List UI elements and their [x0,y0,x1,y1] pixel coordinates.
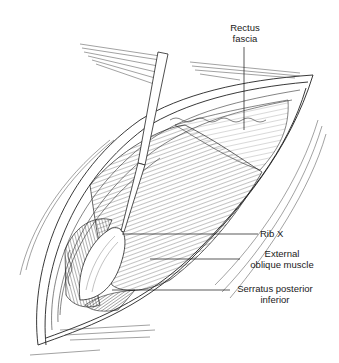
label-rectus-fascia: Rectus fascia [224,22,266,44]
label-external-oblique: External oblique muscle [244,248,320,270]
illustration [0,0,339,363]
label-line: Rib X [260,228,283,239]
label-line: External [244,248,320,259]
label-serratus: Serratus posterior inferior [231,283,319,305]
label-line: fascia [224,33,266,44]
label-line: Serratus posterior [231,283,319,294]
label-line: oblique muscle [244,259,320,270]
anatomical-figure: Rectus fascia Rib X External oblique mus… [0,0,339,363]
label-line: inferior [231,294,319,305]
label-rib-x: Rib X [260,228,283,239]
label-line: Rectus [224,22,266,33]
